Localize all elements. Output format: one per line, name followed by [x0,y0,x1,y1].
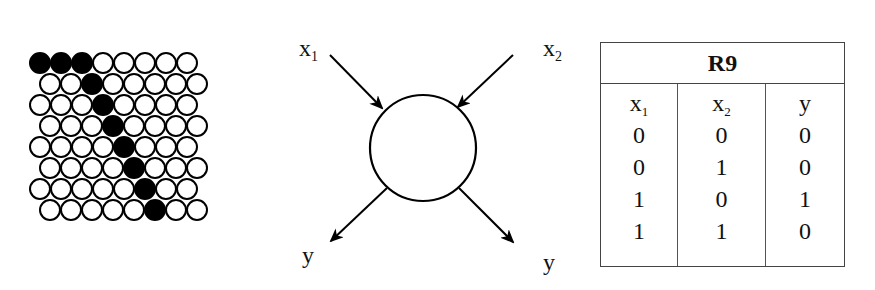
grid-cell-empty [145,74,165,94]
grid-cell-empty [40,200,60,220]
grid-cell-empty [40,74,60,94]
table-cell: 0 [678,122,765,149]
grid-cell-empty [30,179,50,199]
output-label-right: y [543,250,555,274]
grid-cell-empty [124,74,144,94]
grid-cell-empty [187,158,207,178]
grid-cell-empty [61,158,81,178]
hex-circle-grid [0,0,230,240]
table-cell: 0 [601,122,677,149]
grid-cell-empty [82,116,102,136]
grid-cell-empty [30,137,50,157]
grid-cell-empty [187,74,207,94]
table-cell: 0 [601,154,677,181]
grid-cell-empty [166,116,186,136]
grid-cell-empty [61,74,81,94]
truth-table-column-x2: x2 0 1 0 1 [678,84,766,266]
grid-cell-empty [72,137,92,157]
column-header-x2: x2 [678,90,765,120]
grid-cell-empty [51,179,71,199]
truth-table-column-y: y 0 0 1 0 [766,84,844,266]
output-arrow-right [459,188,513,242]
grid-cell-empty [156,53,176,73]
table-cell: 0 [678,186,765,213]
grid-cell-empty [40,158,60,178]
grid-cell-filled [30,53,50,73]
grid-cell-empty [187,116,207,136]
truth-table-column-x1: x1 0 0 1 1 [601,84,678,266]
input-label-x2: x2 [543,36,562,64]
output-label-left: y [302,243,314,267]
table-cell: 1 [601,186,677,213]
table-cell: 1 [678,218,765,245]
grid-cell-filled [135,179,155,199]
grid-cell-filled [145,200,165,220]
grid-cell-empty [124,200,144,220]
grid-cell-empty [114,53,134,73]
truth-table: R9 x1 0 0 1 1 x2 0 1 0 1 y 0 0 1 0 [600,42,845,267]
grid-cell-filled [72,53,92,73]
grid-cell-filled [114,137,134,157]
grid-cell-empty [124,116,144,136]
grid-cell-empty [156,179,176,199]
grid-cell-empty [61,116,81,136]
grid-cell-empty [93,53,113,73]
table-cell: 1 [766,186,844,213]
table-cell: 0 [766,218,844,245]
input-label-x1: x1 [299,36,318,64]
grid-cell-empty [156,137,176,157]
table-cell: 1 [678,154,765,181]
grid-cell-empty [177,53,197,73]
column-header-x1: x1 [601,90,677,120]
table-cell: 0 [766,122,844,149]
grid-cell-filled [103,116,123,136]
grid-cell-empty [166,158,186,178]
grid-cell-empty [135,95,155,115]
grid-cell-empty [135,137,155,157]
grid-cell-filled [93,95,113,115]
grid-cell-empty [103,200,123,220]
grid-cell-empty [114,95,134,115]
table-cell: 0 [766,154,844,181]
grid-cell-empty [93,179,113,199]
grid-cell-empty [61,200,81,220]
grid-cell-filled [51,53,71,73]
grid-cell-empty [145,158,165,178]
neuron-node [370,95,476,201]
input-arrow-x1 [330,55,382,108]
truth-table-title: R9 [601,43,844,84]
grid-cell-filled [124,158,144,178]
grid-cell-empty [177,137,197,157]
grid-cell-empty [177,179,197,199]
grid-cell-empty [51,95,71,115]
grid-cell-empty [187,200,207,220]
grid-cell-empty [72,95,92,115]
grid-cell-filled [82,74,102,94]
grid-cell-empty [156,95,176,115]
grid-cell-empty [135,53,155,73]
grid-cell-empty [103,74,123,94]
grid-cell-empty [72,179,92,199]
figure: x1 x2 y y R9 x1 0 0 1 1 x2 0 1 0 1 y 0 0… [0,0,875,290]
grid-cell-empty [103,158,123,178]
grid-cell-empty [93,137,113,157]
grid-cell-empty [51,137,71,157]
grid-cell-empty [145,116,165,136]
output-arrow-left [331,188,387,241]
input-arrow-x2 [458,55,513,107]
grid-cell-empty [166,74,186,94]
table-cell: 1 [601,218,677,245]
grid-cell-empty [30,95,50,115]
grid-cell-empty [40,116,60,136]
grid-cell-empty [166,200,186,220]
grid-cell-empty [114,179,134,199]
grid-cell-empty [82,158,102,178]
grid-cell-empty [177,95,197,115]
grid-cell-empty [82,200,102,220]
column-header-y: y [766,90,844,120]
